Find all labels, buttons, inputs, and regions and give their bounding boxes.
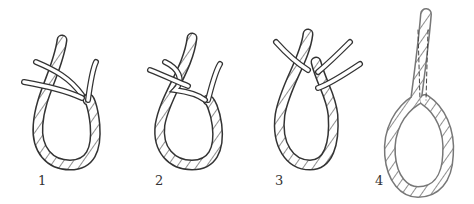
step-4-rope <box>390 14 448 192</box>
step-4-label: 4 <box>375 173 383 188</box>
step-3-rope <box>276 34 360 165</box>
step-1-rope <box>24 40 96 165</box>
step-3-label: 3 <box>275 173 283 188</box>
step-1-label: 1 <box>38 173 46 188</box>
eye-splice-diagram <box>0 0 474 204</box>
step-2-rope <box>150 38 220 165</box>
step-2-label: 2 <box>155 173 163 188</box>
